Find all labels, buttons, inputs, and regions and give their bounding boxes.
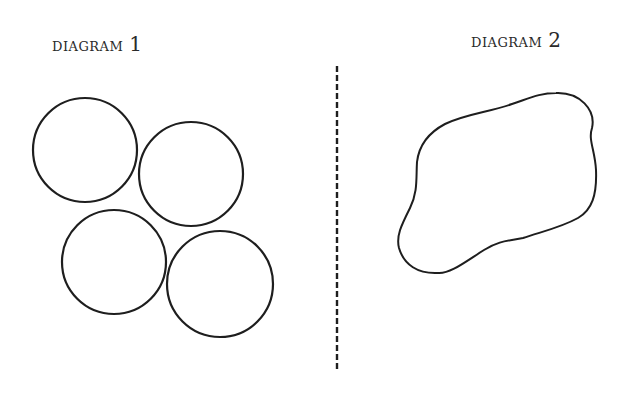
irregular-blob — [398, 93, 596, 273]
circle-1 — [33, 98, 137, 202]
circle-4 — [167, 231, 273, 337]
circle-2 — [139, 122, 243, 226]
diagram-1-circles — [33, 98, 273, 337]
diagram-canvas — [0, 0, 629, 393]
circle-3 — [62, 210, 166, 314]
